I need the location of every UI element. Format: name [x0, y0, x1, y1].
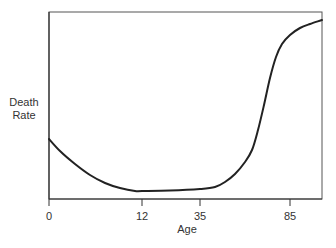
death-rate-chart: 0123585 Death Rate Age — [0, 0, 336, 248]
y-axis-label-line-2: Rate — [12, 109, 35, 121]
x-axis-ticks: 0123585 — [46, 199, 296, 222]
plot-frame — [49, 12, 322, 199]
y-axis-label-line-1: Death — [9, 96, 38, 108]
death-rate-curve — [49, 20, 322, 191]
x-tick-label: 35 — [194, 210, 206, 222]
x-tick-label: 85 — [284, 210, 296, 222]
x-axis-label: Age — [177, 223, 197, 235]
x-tick-label: 0 — [46, 210, 52, 222]
x-tick-label: 12 — [136, 210, 148, 222]
